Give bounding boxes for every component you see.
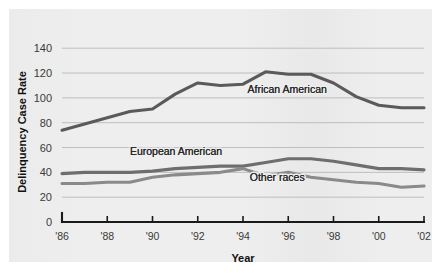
y-axis-tick-label: 120 [34,67,52,79]
chart-screenshot: 020406080100120140'86'88'90'92'94'96'98'… [0,0,441,273]
series-line-european-american [62,159,424,174]
series-line-african-american [62,72,424,130]
line-chart-svg: 020406080100120140'86'88'90'92'94'96'98'… [0,0,441,273]
x-axis-tick-label: '86 [55,230,69,242]
x-axis-tick-label: '88 [100,230,114,242]
series-label-african-american: African American [248,83,328,95]
y-axis-tick-label: 100 [34,92,52,104]
y-axis-tick-label: 20 [40,191,52,203]
series-label-other-races: Other races [250,171,305,183]
series-label-european-american: European American [130,145,222,157]
y-axis-tick-label: 60 [40,142,52,154]
x-axis-title: Year [231,252,255,264]
y-axis-title: Delinquency Case Rate [16,71,28,193]
x-axis-tick-label: '92 [191,230,205,242]
x-axis-tick-label: '96 [281,230,295,242]
y-axis-tick-label: 140 [34,42,52,54]
y-axis-tick-label: 0 [46,216,52,228]
chart-plot-area: 020406080100120140'86'88'90'92'94'96'98'… [0,0,441,273]
y-axis-tick-label: 40 [40,166,52,178]
x-axis-tick-label: '90 [146,230,160,242]
x-axis-tick-label: '98 [327,230,341,242]
x-axis-tick-label: '94 [236,230,250,242]
x-axis-tick-label: '02 [417,230,431,242]
y-axis-tick-label: 80 [40,117,52,129]
x-axis-tick-label: '00 [372,230,386,242]
